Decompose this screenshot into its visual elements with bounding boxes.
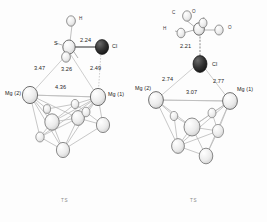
right-distance-mg2-mg1: 3.07 (186, 90, 197, 96)
right-atom-o-right (215, 25, 223, 35)
left-bond-h-s (70, 25, 72, 42)
right-distance-c-cl: 2.21 (180, 44, 191, 50)
right-atom-mg2 (149, 92, 164, 109)
right-label-cl: Cl (212, 62, 217, 67)
right-label-h: H (163, 27, 166, 32)
right-label-mg2: Mg (2) (135, 86, 151, 91)
right-atom-mg1 (223, 93, 238, 110)
right-structure-panel: C O O H Cl Mg (2) Mg (1) 2.21 2.74 2.77 … (134, 0, 267, 222)
left-atom-mg2 (22, 86, 37, 103)
left-distance-s-mg1: 3.26 (61, 67, 72, 73)
left-atom-cl (95, 40, 108, 55)
right-caption-ts: TS (190, 199, 197, 204)
left-distance-s-cl: 2.24 (80, 38, 91, 44)
right-atom-cl (193, 56, 207, 73)
right-atom-o-upper (183, 11, 192, 21)
left-label-mg1: Mg (1) (108, 92, 124, 97)
left-label-cl: Cl (112, 44, 117, 49)
right-atom-h-left (177, 28, 185, 38)
left-structure-panel: H S Cl Mg (2) Mg (1) 2.24 3.47 3.26 2.49… (0, 0, 133, 222)
right-label-c: C (172, 11, 175, 16)
right-structure-drawing (134, 0, 267, 222)
left-label-mg2: Mg (2) (5, 91, 21, 96)
left-atom-h (67, 16, 76, 26)
right-label-o-right: O (228, 26, 232, 31)
left-distance-mg2-mg1: 4.36 (55, 85, 66, 91)
right-atom-o-top (199, 18, 207, 28)
figure-canvas: H S Cl Mg (2) Mg (1) 2.24 3.47 3.26 2.49… (0, 0, 267, 222)
left-atom-mg1 (90, 88, 105, 105)
left-atom-s-sub (62, 52, 71, 62)
right-distance-cl-mg2: 2.74 (162, 77, 173, 83)
left-caption-ts: TS (61, 199, 68, 204)
right-label-mg1: Mg (1) (237, 87, 253, 92)
left-label-s: S (54, 41, 58, 46)
right-label-o-top: O (192, 10, 196, 15)
left-structure-drawing (0, 0, 133, 222)
right-distance-cl-mg1: 2.77 (213, 79, 224, 85)
left-distance-cl-mg1: 2.49 (90, 66, 101, 72)
left-distance-s-mg2: 3.47 (34, 66, 45, 72)
left-label-h: H (79, 17, 82, 22)
